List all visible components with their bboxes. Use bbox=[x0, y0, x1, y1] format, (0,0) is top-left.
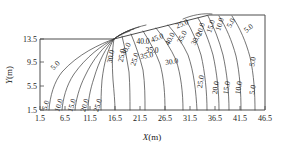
contour-label-25-bl: 25.0 bbox=[91, 97, 104, 113]
x-tick-label-1: 6.5 bbox=[60, 114, 70, 123]
y-tick-label-1: 5.5 bbox=[27, 82, 37, 91]
contour-label-35-interior: 35.0 bbox=[140, 50, 154, 61]
contour-labels-interior: 35.0 30.0 bbox=[140, 50, 179, 67]
y-tick-labels: 1.5 5.5 9.5 13.5 bbox=[23, 35, 37, 115]
y-axis-title: Y(m) bbox=[4, 66, 14, 84]
contour-label-30-interior: 30.0 bbox=[165, 56, 179, 67]
x-tick-labels: 1.5 6.5 11.5 16.5 21.5 26.5 31.5 36.5 41… bbox=[35, 114, 272, 123]
x-tick-label-4: 21.5 bbox=[133, 114, 147, 123]
x-tick-label-5: 26.5 bbox=[158, 114, 172, 123]
contour-line-30-left bbox=[112, 39, 115, 110]
contour-label-20-bl: 20.0 bbox=[78, 97, 91, 113]
contour-label-5-redge: 5.0 bbox=[247, 56, 257, 67]
contour-label-15-bl: 15.0 bbox=[65, 97, 78, 113]
svg-text:Y(m): Y(m) bbox=[4, 66, 14, 84]
contour-labels-bottom-left: 5.0 10.0 15.0 20.0 25.0 bbox=[40, 97, 104, 113]
contour-label-5-slope: 5.0 bbox=[225, 16, 237, 29]
contour-label-5-rl: 5.0 bbox=[247, 84, 257, 95]
x-tick-label-7: 36.5 bbox=[208, 114, 222, 123]
x-axis-title: X(m) bbox=[142, 132, 162, 142]
contour-label-35-slope: 35.0 bbox=[175, 29, 189, 45]
x-tick-label-6: 31.5 bbox=[183, 114, 197, 123]
svg-text:X(m): X(m) bbox=[142, 132, 162, 142]
contour-label-25-rl: 25.0 bbox=[195, 74, 206, 88]
contour-label-40-src: 40.0 bbox=[136, 37, 149, 46]
x-tick-label-9: 46.5 bbox=[258, 114, 272, 123]
contour-labels-source: 25.0 30.0 25.0 30.0 35.0 40.0 45.0 bbox=[105, 31, 165, 67]
contour-label-30-src-a: 30.0 bbox=[105, 49, 117, 64]
contour-label-20-rl: 20.0 bbox=[210, 80, 221, 94]
contour-label-10-rl: 10.0 bbox=[233, 80, 244, 94]
y-tick-label-3: 13.5 bbox=[23, 35, 37, 44]
contour-label-5-leftmid: 5.0 bbox=[49, 59, 62, 72]
contour-plot-figure: 5.0 10.0 15.0 20.0 25.0 5.0 25.0 30.0 25… bbox=[0, 0, 282, 148]
contour-plot-canvas: 5.0 10.0 15.0 20.0 25.0 5.0 25.0 30.0 25… bbox=[0, 0, 282, 148]
contour-label-5-slope-outer: 5.0 bbox=[242, 21, 255, 34]
x-tick-label-2: 11.5 bbox=[83, 114, 97, 123]
y-tick-label-2: 9.5 bbox=[27, 58, 37, 67]
y-axis-title-unit: (m) bbox=[4, 66, 14, 79]
x-tick-label-3: 16.5 bbox=[108, 114, 122, 123]
x-tick-label-0: 1.5 bbox=[35, 114, 45, 123]
y-tick-label-0: 1.5 bbox=[27, 106, 37, 115]
x-tick-label-8: 41.5 bbox=[233, 114, 247, 123]
contour-shoulder-a bbox=[114, 31, 130, 39]
contour-shoulder-c bbox=[114, 27, 139, 39]
x-axis-title-unit: (m) bbox=[148, 132, 161, 142]
contour-label-10-bl: 10.0 bbox=[52, 97, 65, 113]
contour-labels-left-mid: 5.0 bbox=[49, 59, 62, 72]
contour-label-25-slope: 25.0 bbox=[174, 17, 190, 30]
contour-label-15-rl: 15.0 bbox=[221, 80, 232, 94]
